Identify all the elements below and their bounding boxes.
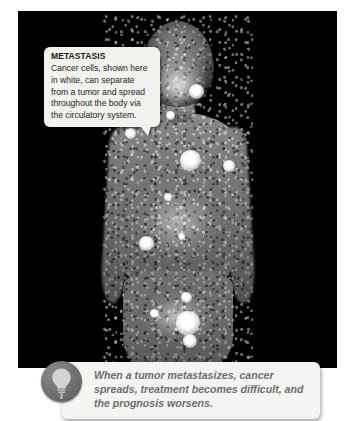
caption-bar: When a tumor metastasizes, cancer spread… (62, 362, 320, 419)
metastasis-callout: METASTASIS Cancer cells, shown here in w… (44, 47, 160, 127)
callout-title: METASTASIS (51, 52, 153, 61)
callout-body-text: Cancer cells, shown here in white, can s… (51, 63, 153, 121)
callout-pointer-tail (140, 126, 151, 136)
lightbulb-icon (41, 361, 82, 402)
bone-scan-image: METASTASIS Cancer cells, shown here in w… (18, 11, 337, 368)
caption-text: When a tumor metastasizes, cancer spread… (94, 369, 310, 411)
